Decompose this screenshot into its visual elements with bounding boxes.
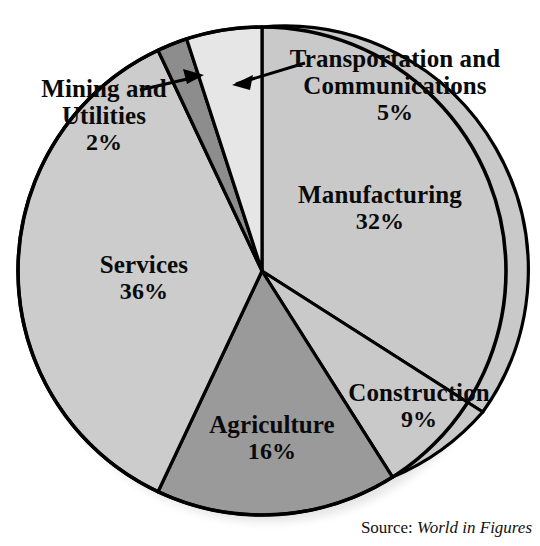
slice-label-construction-percent: 9% xyxy=(330,407,508,432)
source-prefix: Source: xyxy=(361,518,413,537)
slice-label-services: Services 36% xyxy=(68,252,220,304)
slice-label-manufacturing-name: Manufacturing xyxy=(274,182,486,208)
source-title: World in Figures xyxy=(417,518,532,537)
slice-label-construction-name: Construction xyxy=(330,380,508,406)
slice-label-mining: Mining and Utilities 2% xyxy=(6,76,202,155)
slice-label-transportation-percent: 5% xyxy=(268,100,522,125)
source-note: Source: World in Figures xyxy=(361,518,532,538)
slice-label-mining-name: Mining and Utilities xyxy=(6,76,202,129)
slice-label-mining-percent: 2% xyxy=(6,130,202,155)
slice-label-transportation: Transportation and Communications 5% xyxy=(268,46,522,125)
slice-label-manufacturing: Manufacturing 32% xyxy=(274,182,486,234)
slice-label-services-name: Services xyxy=(68,252,220,278)
slice-label-manufacturing-percent: 32% xyxy=(274,209,486,234)
pie-chart-figure: Transportation and Communications 5% Min… xyxy=(0,0,540,546)
slice-label-agriculture-percent: 16% xyxy=(186,439,358,464)
slice-label-services-percent: 36% xyxy=(68,279,220,304)
slice-label-transportation-name: Transportation and Communications xyxy=(268,46,522,99)
slice-label-construction: Construction 9% xyxy=(330,380,508,432)
